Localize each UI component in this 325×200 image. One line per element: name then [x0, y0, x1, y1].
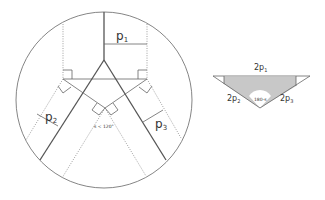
right-branch: [104, 60, 166, 160]
right-angle-marker: [63, 70, 72, 79]
right-angle-marker: [58, 86, 71, 93]
right-angle-marker: [138, 70, 147, 79]
label-2p1: 2p1: [254, 63, 267, 73]
left-perpendicular: [63, 79, 105, 108]
label-2p3: 2p3: [280, 94, 293, 104]
label-angle-180-s: 180-s: [254, 97, 267, 102]
right-angle-marker: [92, 103, 105, 115]
diagram-canvas: p1 p2 p3 s < 120° 2p1 2p2 2p3 180-s: [0, 0, 325, 200]
label-angle-s: s < 120°: [94, 124, 114, 129]
label-2p2: 2p2: [227, 94, 240, 104]
right-perpendicular: [105, 79, 147, 108]
triangle-diagram: 2p1 2p2 2p3 180-s: [213, 63, 310, 108]
left-inner-guide: [62, 108, 105, 178]
circle-diagram: p1 p2 p3 s < 120°: [16, 12, 192, 188]
label-p3: p3: [155, 117, 167, 132]
label-p1: p1: [116, 29, 128, 44]
right-angle-marker: [105, 103, 118, 115]
right-angle-marker: [139, 86, 152, 93]
label-p2: p2: [45, 110, 57, 125]
